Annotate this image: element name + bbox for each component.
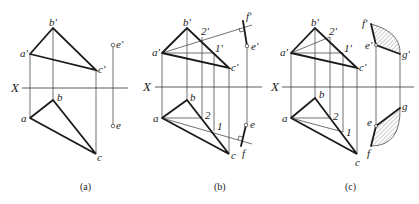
label-e: e (250, 118, 255, 130)
label-e-prime: e' (116, 38, 124, 50)
label-b: b (57, 91, 63, 103)
label-c: c (97, 151, 102, 163)
panel-a: X b' a' c' e' b a c e (a) (10, 16, 128, 193)
x-axis-label: X (142, 79, 152, 94)
label-a-prime: a' (280, 46, 289, 58)
label-f: f (242, 147, 247, 159)
point-e (244, 123, 248, 127)
label-b-prime: b' (49, 16, 58, 28)
label-c: c (355, 156, 360, 168)
label-a: a (282, 112, 288, 124)
label-c-prime: c' (359, 61, 367, 73)
point-e (375, 125, 378, 128)
label-a: a (153, 112, 159, 124)
caption-c: (c) (345, 181, 356, 193)
panel-c: X b' a' c' 2' 1' f' e' g' (270, 16, 414, 193)
label-1-prime: 1' (344, 42, 353, 54)
label-1: 1 (217, 120, 223, 132)
line-a1-extended (162, 118, 252, 144)
point-e-prime (111, 43, 115, 47)
label-f: f (367, 147, 372, 159)
label-1-prime: 1' (215, 42, 224, 54)
label-a-prime: a' (152, 46, 161, 58)
x-axis-label: X (270, 79, 280, 94)
caption-b: (b) (214, 181, 226, 193)
label-c-prime: c' (231, 61, 239, 73)
label-g: g (402, 100, 408, 112)
label-2-prime: 2' (329, 25, 338, 37)
point-e-prime (245, 44, 249, 48)
line-e-f (241, 125, 246, 146)
label-1: 1 (346, 126, 352, 138)
label-e-prime: e' (365, 39, 373, 51)
label-g-prime: g' (402, 48, 411, 60)
panel-b: X b' a' c' e' f' 2' 1' b a c (142, 10, 262, 193)
projection-figure: X b' a' c' e' b a c e (a) X (0, 0, 419, 204)
label-e: e (367, 116, 372, 128)
label-c: c (231, 149, 236, 161)
point-e-prime (375, 44, 378, 47)
label-2: 2 (333, 110, 339, 122)
label-b: b (190, 91, 196, 103)
point-e (111, 124, 115, 128)
caption-a: (a) (80, 181, 91, 193)
triangle-top-view (30, 100, 96, 154)
label-f-prime: f' (246, 10, 252, 22)
label-c-prime: c' (98, 63, 106, 75)
triangle-front-view (30, 28, 96, 70)
line-e-prime-f-prime (243, 21, 247, 46)
label-e-prime: e' (251, 40, 259, 52)
label-2: 2 (205, 109, 211, 121)
label-e: e (116, 119, 121, 131)
label-b-prime: b' (183, 16, 192, 28)
label-2-prime: 2' (201, 25, 210, 37)
label-b-prime: b' (311, 16, 320, 28)
label-f-prime: f' (362, 17, 368, 29)
x-axis-label: X (10, 80, 20, 95)
label-a: a (21, 112, 27, 124)
line-a2-front (291, 37, 330, 53)
label-b: b (319, 88, 325, 100)
label-a-prime: a' (20, 47, 29, 59)
